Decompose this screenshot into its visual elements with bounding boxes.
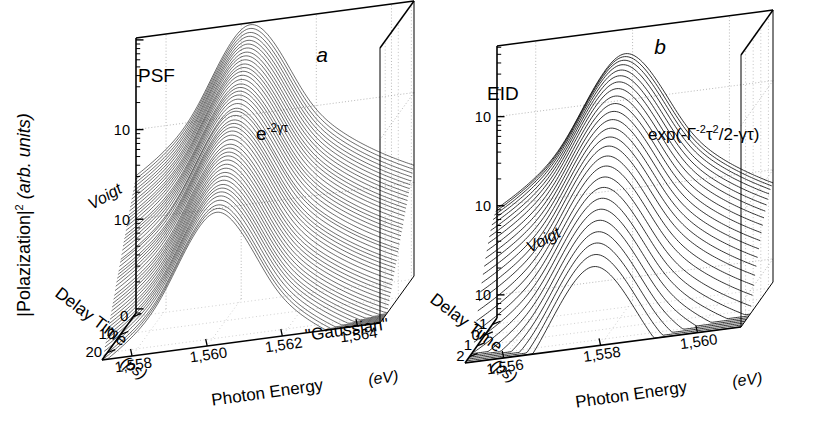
energy-tick: [599, 338, 601, 345]
panel-b-decay-base: exp(-Γ: [648, 125, 696, 144]
y-tick-label: 10: [475, 109, 491, 125]
figure-root: 1010010201,5581,5601,5621,564101010-1012…: [0, 0, 837, 435]
y-tick-label: 10: [475, 287, 491, 303]
energy-tick: [281, 329, 283, 336]
panel-b-letter: b: [654, 35, 666, 58]
panel-b-energy-axis-units: (eV): [731, 369, 763, 390]
energy-tick: [206, 339, 208, 346]
gridline-floor-energy: [504, 313, 536, 358]
delay-tick-label: 0: [120, 307, 128, 324]
energy-tick: [696, 326, 698, 333]
y-axis-title-main: |Polazization|: [14, 210, 34, 316]
panel-a-letter: a: [316, 43, 328, 66]
delay-tick-label: 20: [86, 343, 103, 360]
panel-b-name: EID: [487, 83, 519, 104]
panel-b-energy-axis-title: Photon Energy: [574, 377, 689, 412]
y-tick-label: 10: [114, 122, 130, 138]
panel-a-energy-axis-units: (eV): [367, 367, 399, 388]
energy-tick-label: 1,560: [679, 330, 719, 352]
energy-tick-label: 1,562: [264, 334, 304, 356]
delay-tick-label: 2: [456, 347, 464, 364]
figure-canvas: 1010010201,5581,5601,5621,564101010-1012…: [0, 0, 837, 435]
y-tick-label: 10: [475, 198, 491, 214]
panel-a-decay-exponent: -2γτ: [267, 121, 289, 135]
y-tick-label: 10: [114, 212, 130, 228]
panel-b-decay-exp1: -2: [696, 123, 706, 135]
energy-tick-label: 1,560: [189, 344, 229, 366]
panel-a-decay-base: e: [256, 123, 267, 144]
panel-a-voigt-label: Voigt: [85, 180, 125, 213]
delay-tick-label: 1: [464, 336, 472, 353]
panel-b-decay-tail: /2-γτ): [719, 125, 760, 144]
panel-a-name: PSF: [138, 65, 175, 86]
y-axis-title-units: (arb. units): [14, 113, 34, 199]
energy-tick-label: 1,558: [582, 343, 622, 365]
panel-b: 101010-10121,5561,5581,560: [456, 10, 773, 378]
energy-tick: [502, 351, 504, 358]
y-axis-title: |Polazization|2 (arb. units): [13, 113, 34, 317]
panel-a-energy-axis-title: Photon Energy: [210, 375, 325, 410]
